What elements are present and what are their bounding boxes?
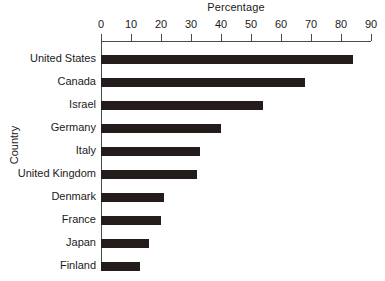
- x-axis-line: [101, 41, 371, 42]
- x-axis-tick: [161, 34, 162, 41]
- bar: [101, 55, 353, 64]
- category-label: Israel: [69, 97, 96, 112]
- bar-row: United States: [101, 49, 371, 72]
- x-axis-tick: [191, 34, 192, 41]
- bar: [101, 193, 164, 202]
- category-label: Denmark: [51, 189, 96, 204]
- bar: [101, 78, 305, 87]
- x-axis-tick: [221, 34, 222, 41]
- x-axis-tick: [131, 34, 132, 41]
- x-axis-tick: [341, 34, 342, 41]
- bar: [101, 124, 221, 133]
- x-axis-tick-label: 90: [365, 18, 377, 30]
- x-axis-tick: [371, 34, 372, 41]
- category-label: United States: [30, 51, 96, 66]
- category-label: Japan: [66, 235, 96, 250]
- x-axis-tick-label: 40: [215, 18, 227, 30]
- x-axis-tick-label: 60: [275, 18, 287, 30]
- x-axis-tick: [311, 34, 312, 41]
- plot-area: United StatesCanadaIsraelGermanyItalyUni…: [101, 49, 371, 272]
- x-axis-tick-label: 10: [125, 18, 137, 30]
- x-axis-tick-label: 30: [185, 18, 197, 30]
- x-axis-tick: [101, 34, 102, 41]
- bar-row: Israel: [101, 95, 371, 118]
- x-axis-tick-label: 70: [305, 18, 317, 30]
- bar: [101, 170, 197, 179]
- x-axis-tick: [251, 34, 252, 41]
- category-label: Italy: [76, 143, 96, 158]
- category-label: Germany: [51, 120, 96, 135]
- x-axis-tick-label: 50: [245, 18, 257, 30]
- bar: [101, 262, 140, 271]
- bar-row: United Kingdom: [101, 164, 371, 187]
- x-axis-tick-label: 0: [98, 18, 104, 30]
- bar-chart: Percentage Country 0102030405060708090 U…: [0, 0, 385, 281]
- x-axis-tick-label: 80: [335, 18, 347, 30]
- bar: [101, 147, 200, 156]
- bar-row: France: [101, 210, 371, 233]
- bar: [101, 216, 161, 225]
- bar-row: Canada: [101, 72, 371, 95]
- category-label: Canada: [57, 74, 96, 89]
- category-label: France: [62, 212, 96, 227]
- bar-row: Italy: [101, 141, 371, 164]
- category-label: United Kingdom: [18, 166, 96, 181]
- x-axis-tick: [281, 34, 282, 41]
- category-label: Finland: [60, 258, 96, 273]
- chart-title: Percentage: [101, 1, 371, 13]
- bar: [101, 101, 263, 110]
- x-axis-tick-label: 20: [155, 18, 167, 30]
- bar-row: Japan: [101, 233, 371, 256]
- bar-row: Denmark: [101, 187, 371, 210]
- bar-row: Finland: [101, 256, 371, 279]
- bar: [101, 239, 149, 248]
- bar-row: Germany: [101, 118, 371, 141]
